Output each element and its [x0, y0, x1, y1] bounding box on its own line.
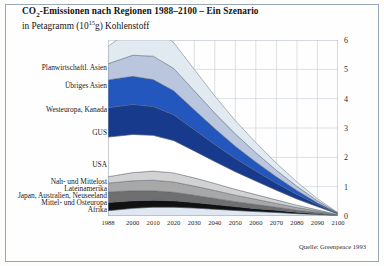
x-axis-tick-label: 2040: [208, 219, 221, 226]
y-axis-tick-label: 0: [344, 212, 348, 221]
chart-title: CO2-Emissionen nach Regionen 1988–2100 –…: [22, 6, 259, 19]
series-label-nah-und-mittelost: Nah- und Mittelost: [51, 178, 107, 186]
series-label-lateinamerika: Lateinamerika: [64, 185, 107, 193]
plot-area: [108, 40, 338, 216]
series-label-planwirtschaftl-asien: Planwirtschaftl. Asien: [42, 64, 107, 72]
x-axis-tick-label: 1988: [101, 219, 114, 226]
series-label-usa: USA: [92, 161, 107, 169]
chart-subtitle: in Petagramm (1015g) Kohlenstoff: [22, 19, 149, 31]
y-axis-tick-label: 2: [344, 153, 348, 162]
series-label-afrika: Afrika: [88, 206, 107, 214]
figure-container: CO2-Emissionen nach Regionen 1988–2100 –…: [0, 0, 384, 266]
x-axis-tick-label: 2070: [270, 219, 283, 226]
y-axis-tick-label: 3: [344, 124, 348, 133]
series-label-japan-australien-neuseeland: Japan, Australien, Neuseeland: [18, 192, 107, 200]
x-axis-tick-label: 2030: [188, 219, 201, 226]
y-axis-tick-label: 4: [344, 94, 348, 103]
series-label-mittel-und-osteuropa: Mittel- und Osteuropa: [41, 199, 107, 207]
chart-title-co: CO: [22, 6, 36, 16]
x-axis-tick-label: 2010: [147, 219, 160, 226]
chart-subtitle-post: g) Kohlenstoff: [95, 21, 149, 31]
x-axis-tick-label: 2060: [249, 219, 262, 226]
series-label-briges-asien: Übriges Asien: [65, 82, 107, 90]
x-axis-tick-label: 2090: [311, 219, 324, 226]
x-axis-tick-label: 2050: [229, 219, 242, 226]
x-axis-tick-label: 2020: [167, 219, 180, 226]
chart-title-rest: -Emissionen nach Regionen 1988–2100 – Ei…: [40, 6, 259, 16]
y-axis-tick-label: 1: [344, 182, 348, 191]
y-axis-tick-label: 6: [344, 36, 348, 45]
series-label-westeuropa-kanada: Westeuropa, Kanada: [46, 106, 107, 114]
y-axis-tick-label: 5: [344, 65, 348, 74]
x-axis-tick-label: 2100: [331, 219, 344, 226]
x-axis-tick-label: 2000: [126, 219, 139, 226]
stacked-area-svg: [108, 40, 338, 216]
source-note: Quelle: Greenpeace 1993: [299, 243, 366, 250]
chart-subtitle-pre: in Petagramm (10: [22, 21, 89, 31]
series-label-gus: GUS: [92, 129, 107, 137]
x-axis-tick-label: 2080: [290, 219, 303, 226]
